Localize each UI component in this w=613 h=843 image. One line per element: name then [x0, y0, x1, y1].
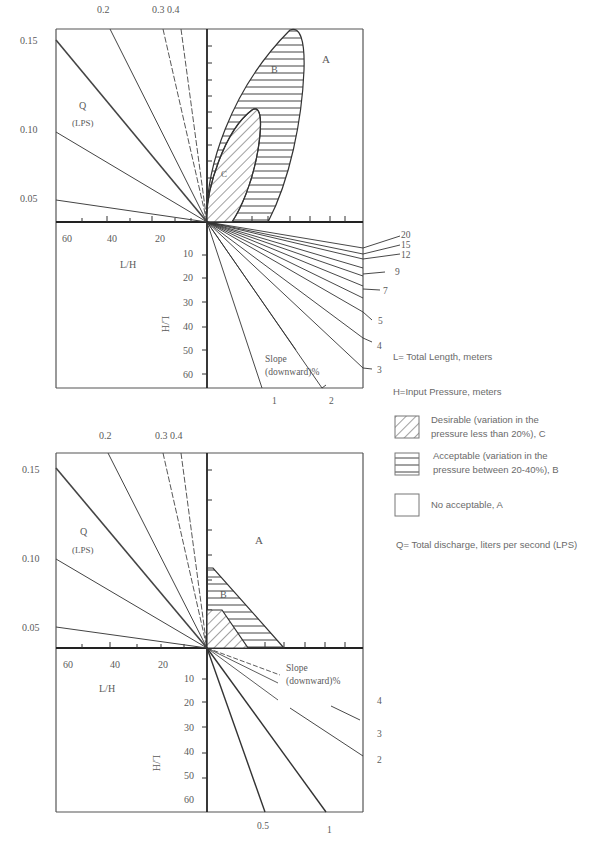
upper-v-tick-40: 40: [183, 322, 193, 332]
legend-swatch-b: [395, 453, 419, 475]
legend-swatch-c: [395, 416, 419, 438]
upper-slope-label-2: (downward)%: [265, 368, 319, 378]
upper-v-tick-60: 60: [183, 370, 193, 380]
lower-region-a-label: A: [255, 535, 263, 546]
upper-y-tick-0-05: 0.05: [20, 194, 38, 204]
upper-region-c-label: C: [221, 170, 227, 179]
lower-v-tick-50: 50: [184, 771, 194, 781]
legend-swatches: [395, 416, 419, 516]
legend-h-definition: H=Input Pressure, meters: [393, 385, 502, 399]
upper-slope-3: 3: [377, 366, 382, 376]
lower-x-tick-20: 20: [158, 660, 168, 670]
legend-b-line2: pressure between 20-40%), B: [433, 463, 559, 477]
legend-a-line: No acceptable, A: [431, 498, 503, 512]
upper-slope-7: 7: [383, 287, 388, 297]
upper-lps-label: (LPS): [72, 119, 94, 128]
legend-l-definition: L= Total Length, meters: [393, 350, 492, 364]
lower-y-tick-0-10: 0.10: [22, 554, 40, 564]
upper-y-tick-0-15: 0.15: [20, 36, 38, 46]
lower-y-tick-0-05: 0.05: [22, 623, 40, 633]
lower-top-label-0-2: 0.2: [99, 431, 112, 441]
upper-v-tick-20: 20: [183, 273, 193, 283]
upper-x-tick-20: 20: [155, 234, 165, 244]
upper-v-tick-50: 50: [183, 346, 193, 356]
lower-slope-lines: [207, 648, 363, 812]
lower-top-label-0-3-0-4: 0.3 0.4: [155, 431, 183, 441]
lower-lh-horizontal-label: L/H: [99, 684, 115, 694]
upper-slope-5: 5: [378, 317, 383, 327]
lower-lh-vertical-label: L/H: [151, 755, 161, 771]
lower-slope-4: 4: [377, 697, 382, 707]
lower-v-tick-20: 20: [184, 698, 194, 708]
lower-v-tick-10: 10: [184, 674, 194, 684]
lower-v-tick-30: 30: [184, 723, 194, 733]
lower-x-tick-40: 40: [110, 660, 120, 670]
upper-lh-vertical-label: L/H: [160, 316, 170, 332]
upper-bottom-label-1: 1: [272, 397, 277, 407]
lower-q-label: Q: [80, 527, 87, 537]
upper-lh-horizontal-label: L/H: [120, 260, 136, 270]
legend-q-definition: Q= Total discharge, liters per second (L…: [396, 538, 577, 552]
lower-y-tick-0-15: 0.15: [22, 465, 40, 475]
upper-slope-4: 4: [377, 342, 382, 352]
lower-slope-label-2: (downward)%: [286, 677, 340, 687]
legend-c-line2: pressure less than 20%), C: [431, 427, 546, 441]
upper-v-tick-30: 30: [183, 298, 193, 308]
upper-region-b-label: B: [271, 65, 278, 75]
lower-bottom-label-0-5: 0.5: [257, 822, 269, 832]
upper-x-tick-40: 40: [107, 234, 117, 244]
upper-bottom-label-2: 2: [329, 397, 334, 407]
upper-v-tick-10: 10: [183, 249, 193, 259]
lower-v-tick-60: 60: [184, 795, 194, 805]
upper-slope-12: 12: [401, 251, 411, 261]
upper-x-tick-60: 60: [62, 234, 72, 244]
legend-swatch-a: [395, 494, 419, 516]
upper-y-tick-0-10: 0.10: [20, 125, 38, 135]
upper-q-label: Q: [79, 101, 86, 111]
lower-slope-label-1: Slope: [286, 664, 308, 674]
upper-chart: [56, 29, 400, 388]
lower-slope-2: 2: [377, 756, 382, 766]
lower-region-b-label: B: [220, 590, 227, 600]
lower-v-tick-40: 40: [184, 747, 194, 757]
upper-top-label-0-3-0-4: 0.3 0.4: [152, 5, 180, 15]
lower-x-tick-60: 60: [63, 660, 73, 670]
upper-top-label-0-2: 0.2: [97, 5, 110, 15]
upper-slope-9: 9: [395, 268, 400, 278]
legend-b-line1: Acceptable (variation in the: [433, 449, 548, 463]
legend-c-line1: Desirable (variation in the: [431, 413, 539, 427]
lower-lps-label: (LPS): [72, 546, 94, 555]
lower-chart: [56, 453, 363, 812]
upper-slope-label-1: Slope: [265, 355, 287, 365]
upper-region-a-label: A: [322, 54, 330, 65]
lower-bottom-label-1: 1: [327, 826, 332, 836]
lower-slope-3: 3: [377, 730, 382, 740]
